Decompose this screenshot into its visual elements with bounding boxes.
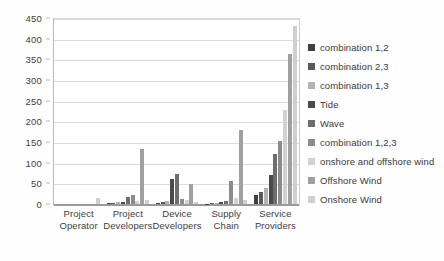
bar-group	[251, 18, 300, 204]
bar	[239, 130, 243, 204]
chart-legend: combination 1,2combination 2,3combinatio…	[308, 38, 444, 209]
bar-group	[54, 18, 103, 204]
bar	[215, 203, 219, 204]
legend-label: combination 1,2	[320, 42, 389, 53]
bar-chart: 050100150200250300350400450 ProjectOpera…	[0, 0, 444, 261]
legend-label: combination 1,2,3	[320, 137, 397, 148]
x-axis-label: DeviceDevelopers	[152, 208, 201, 232]
legend-item[interactable]: Offshore Wind	[308, 171, 444, 190]
y-axis-tick-mark	[46, 162, 50, 163]
legend-item[interactable]: combination 1,3	[308, 76, 444, 95]
y-axis-tick-mark	[46, 80, 50, 81]
bar	[121, 202, 125, 204]
legend-swatch-icon	[308, 44, 315, 51]
x-axis-label: SupplyChain	[202, 208, 251, 232]
legend-item[interactable]: Wave	[308, 114, 444, 133]
y-axis-tick-label: 450	[26, 13, 42, 24]
bar	[273, 154, 277, 204]
y-axis-tick-label: 400	[26, 33, 42, 44]
bar	[135, 201, 139, 204]
y-axis-tick-label: 300	[26, 75, 42, 86]
bar	[269, 175, 273, 204]
x-axis-label: ProjectOperator	[54, 208, 103, 232]
y-axis-tick-label: 150	[26, 137, 42, 148]
y-axis-tick-mark	[46, 100, 50, 101]
y-axis-tick-label: 250	[26, 95, 42, 106]
bar	[131, 195, 135, 204]
legend-label: Tide	[320, 99, 339, 110]
bar	[116, 202, 120, 204]
axis-baseline	[54, 205, 299, 206]
x-axis-label-line: Supply	[202, 208, 251, 220]
x-axis-label-line: Providers	[251, 220, 300, 232]
x-axis-label-line: Operator	[54, 220, 103, 232]
bar	[278, 141, 282, 204]
x-axis-label-line: Chain	[202, 220, 251, 232]
bar	[140, 149, 144, 204]
legend-label: Offshore Wind	[320, 175, 382, 186]
bar-groups	[54, 18, 300, 204]
bar	[229, 181, 233, 204]
x-axis-label-line: Project	[103, 208, 152, 220]
bar-group	[152, 18, 201, 204]
bar	[96, 198, 100, 204]
x-axis-label: ProjectDevelopers	[103, 208, 152, 232]
y-axis-tick-mark	[46, 142, 50, 143]
bar-group	[103, 18, 152, 204]
legend-swatch-icon	[308, 196, 315, 203]
y-axis-tick-mark	[46, 59, 50, 60]
bar	[107, 203, 111, 204]
bar	[180, 199, 184, 204]
bar	[243, 200, 247, 204]
bar-group	[202, 18, 251, 204]
legend-item[interactable]: Onshore Wind	[308, 190, 444, 209]
legend-item[interactable]: combination 1,2	[308, 38, 444, 57]
x-axis-label-line: Developers	[152, 220, 201, 232]
legend-label: combination 1,3	[320, 80, 389, 91]
bar	[293, 26, 297, 204]
bar	[259, 192, 263, 204]
y-axis-tick-label: 350	[26, 54, 42, 65]
legend-swatch-icon	[308, 139, 315, 146]
legend-swatch-icon	[308, 63, 315, 70]
legend-item[interactable]: combination 2,3	[308, 57, 444, 76]
y-axis-tick-mark	[46, 204, 50, 205]
bar	[264, 188, 268, 204]
legend-item[interactable]: Tide	[308, 95, 444, 114]
bar	[210, 203, 214, 204]
legend-label: Wave	[320, 118, 344, 129]
bar	[283, 110, 287, 204]
bar	[254, 195, 258, 204]
legend-swatch-icon	[308, 82, 315, 89]
bar	[288, 54, 292, 204]
legend-item[interactable]: onshore and offshore wind	[308, 152, 444, 171]
x-axis-label-line: Developers	[103, 220, 152, 232]
legend-label: Onshore Wind	[320, 194, 382, 205]
y-axis: 050100150200250300350400450	[0, 18, 50, 205]
legend-swatch-icon	[308, 120, 315, 127]
bar	[189, 184, 193, 204]
y-axis-tick-mark	[46, 38, 50, 39]
y-axis-tick-mark	[46, 121, 50, 122]
y-axis-tick-mark	[46, 183, 50, 184]
legend-label: onshore and offshore wind	[320, 156, 434, 167]
bar	[194, 202, 198, 204]
x-axis-label-line: Service	[251, 208, 300, 220]
x-axis-label: ServiceProviders	[251, 208, 300, 232]
bar	[170, 179, 174, 204]
bar	[175, 174, 179, 204]
bar	[126, 197, 130, 204]
legend-swatch-icon	[308, 177, 315, 184]
legend-swatch-icon	[308, 158, 315, 165]
bar	[145, 200, 149, 204]
bar	[185, 200, 189, 204]
x-axis-labels: ProjectOperatorProjectDevelopersDeviceDe…	[54, 208, 300, 232]
x-axis-label-line: Device	[152, 208, 201, 220]
y-axis-tick-label: 0	[37, 199, 42, 210]
legend-item[interactable]: combination 1,2,3	[308, 133, 444, 152]
y-axis-tick-label: 200	[26, 116, 42, 127]
bar	[219, 202, 223, 204]
bar	[161, 202, 165, 204]
bar	[165, 201, 169, 204]
x-axis-label-line: Project	[54, 208, 103, 220]
